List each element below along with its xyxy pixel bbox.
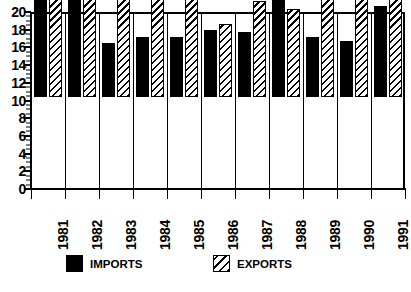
x-axis-tick-label: 1985 <box>191 198 207 250</box>
bar-exports <box>219 24 233 97</box>
bar-imports <box>238 32 252 97</box>
bar-exports <box>49 0 63 97</box>
x-axis-tick-label: 1988 <box>293 198 309 250</box>
diagonal-hatch-square-icon <box>213 255 230 272</box>
bar-exports <box>287 9 301 98</box>
bar-imports <box>102 43 116 97</box>
chart-legend: IMPORTS EXPORTS <box>0 255 411 285</box>
bar-imports <box>272 0 286 97</box>
x-axis-tick-label: 1983 <box>123 198 139 250</box>
bar-exports <box>253 1 267 97</box>
bar-imports <box>374 6 388 97</box>
x-axis-tick-label: 1982 <box>89 198 105 250</box>
bar-exports <box>389 0 403 97</box>
x-axis-tick-label: 1991 <box>395 198 411 250</box>
bar-imports <box>204 30 218 97</box>
bar-imports <box>34 0 48 97</box>
x-axis-tick-label: 1986 <box>225 198 241 250</box>
legend-item-imports: IMPORTS <box>66 255 142 272</box>
x-axis-tick-label: 1987 <box>259 198 275 250</box>
legend-label-imports: IMPORTS <box>90 258 142 270</box>
bar-exports <box>151 0 165 97</box>
bar-exports <box>83 0 97 97</box>
bar-exports <box>117 0 131 97</box>
bar-imports <box>170 37 184 97</box>
bar-imports <box>340 41 354 97</box>
legend-label-exports: EXPORTS <box>237 258 292 270</box>
bar-chart: 02468101214161820 1981198219831984198519… <box>0 0 411 292</box>
bar-exports <box>355 0 369 97</box>
legend-item-exports: EXPORTS <box>213 255 292 272</box>
bar-exports <box>185 0 199 97</box>
x-axis-labels: 1981198219831984198519861987198819891990… <box>0 200 411 252</box>
bar-exports <box>321 0 335 97</box>
bars-layer <box>0 0 411 200</box>
x-axis-tick-label: 1990 <box>361 198 377 250</box>
solid-black-square-icon <box>66 255 83 272</box>
bar-imports <box>136 37 150 97</box>
x-axis-tick-label: 1981 <box>55 198 71 250</box>
x-axis-tick-label: 1984 <box>157 198 173 250</box>
bar-imports <box>68 0 82 97</box>
bar-imports <box>306 37 320 97</box>
x-axis-tick-label: 1989 <box>327 198 343 250</box>
